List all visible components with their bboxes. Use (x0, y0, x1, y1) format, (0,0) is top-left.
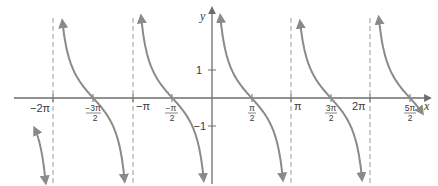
cot-branch-0 (36, 130, 46, 181)
x-tick-labels: −2π −3π 2 −π −π 2 π 2 π 3π 2 2π 5π 2 (30, 100, 416, 123)
tick-label-3pi-2-den: 2 (329, 113, 334, 123)
tick-label-neg-pi-2-num: −π (166, 103, 177, 113)
tick-label-neg-3pi-2-den: 2 (93, 113, 98, 123)
tick-label-3pi-2-num: 3π (326, 103, 337, 113)
y-axis-title: y (199, 9, 206, 23)
cotangent-graph: −2π −3π 2 −π −π 2 π 2 π 3π 2 2π 5π 2 1 −… (0, 0, 438, 186)
y-tick-label-1: 1 (196, 64, 202, 76)
x-axis-title: x (423, 99, 430, 113)
tick-label-pi-2-num: π (249, 103, 255, 113)
tick-label-5pi-2-den: 2 (408, 113, 413, 123)
tick-label-neg-2pi: −2π (30, 102, 51, 114)
y-tick-label-neg1: −1 (193, 120, 206, 132)
tick-label-neg-3pi-2-num: −3π (85, 103, 101, 113)
axes (14, 10, 428, 184)
tick-label-pi-2-den: 2 (250, 113, 255, 123)
tick-label-neg-pi-2-den: 2 (170, 113, 175, 123)
tick-label-2pi: 2π (352, 100, 366, 112)
tick-label-neg-pi: −π (136, 100, 150, 112)
tick-label-5pi-2-num: 5π (405, 103, 416, 113)
tick-label-pi: π (294, 100, 302, 112)
